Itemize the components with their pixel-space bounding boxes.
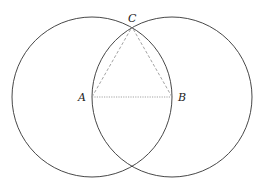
point-label-B: B (177, 91, 186, 104)
segment-BC (132, 27, 172, 97)
point-label-A: A (77, 91, 86, 104)
segment-AC (92, 27, 132, 97)
diagram-canvas: ABC (0, 0, 266, 189)
construction-svg: ABC (0, 0, 266, 189)
point-label-C: C (128, 12, 137, 25)
